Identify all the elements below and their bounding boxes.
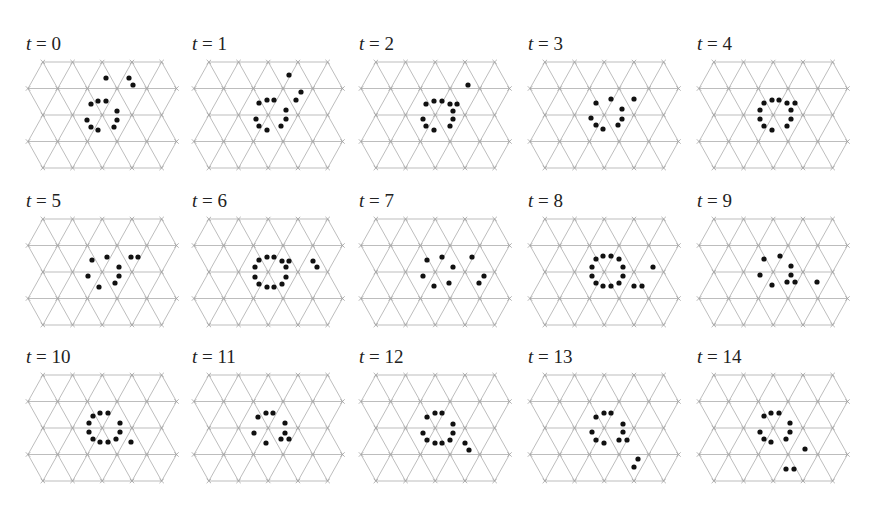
particle-dot bbox=[432, 410, 437, 415]
particle-dot bbox=[450, 430, 455, 435]
particle-dot bbox=[431, 127, 436, 132]
particle-dot bbox=[256, 281, 261, 286]
particle-dot bbox=[263, 440, 268, 445]
particle-dot bbox=[593, 100, 598, 105]
particle-dot bbox=[104, 254, 109, 259]
particle-dot bbox=[114, 117, 119, 122]
particle-dot bbox=[86, 420, 91, 425]
particle-dot bbox=[768, 439, 773, 444]
triangular-lattice bbox=[530, 219, 700, 349]
particle-dot bbox=[283, 264, 288, 269]
particle-dot bbox=[423, 101, 428, 106]
particle-dot bbox=[251, 430, 256, 435]
particle-dot bbox=[88, 124, 93, 129]
particle-dot bbox=[608, 283, 613, 288]
time-step-panel-7: t = 7 bbox=[357, 189, 527, 339]
triangular-lattice bbox=[28, 219, 198, 349]
time-value: 11 bbox=[218, 346, 236, 367]
particle-dot bbox=[446, 280, 451, 285]
particle-dot bbox=[431, 98, 436, 103]
particle-dot bbox=[96, 284, 101, 289]
particle-dot bbox=[424, 437, 429, 442]
particle-dot bbox=[593, 280, 598, 285]
particle-dot bbox=[650, 264, 655, 269]
particle-dot bbox=[85, 273, 90, 278]
particle-dot bbox=[593, 256, 598, 261]
time-step-panel-4: t = 4 bbox=[695, 32, 865, 182]
particle-dot bbox=[788, 272, 793, 277]
time-value: 13 bbox=[554, 346, 573, 367]
particle-dot bbox=[264, 97, 269, 102]
particle-dot bbox=[601, 440, 606, 445]
triangular-lattice bbox=[361, 219, 531, 349]
particle-dot bbox=[90, 413, 95, 418]
particle-dot bbox=[282, 420, 287, 425]
triangular-lattice bbox=[699, 219, 869, 349]
equals-sign: = bbox=[197, 190, 217, 211]
time-step-panel-10: t = 10 bbox=[24, 345, 194, 495]
particle-dot bbox=[431, 283, 436, 288]
time-value: 3 bbox=[554, 33, 564, 54]
equals-sign: = bbox=[31, 33, 51, 54]
time-step-label: t = 14 bbox=[697, 347, 742, 366]
particle-dot bbox=[103, 98, 108, 103]
triangular-lattice bbox=[361, 375, 531, 505]
particle-dot bbox=[252, 264, 257, 269]
particle-dot bbox=[420, 430, 425, 435]
time-step-label: t = 9 bbox=[697, 191, 732, 210]
particle-dot bbox=[619, 106, 624, 111]
particle-dot bbox=[439, 254, 444, 259]
particle-dot bbox=[130, 82, 135, 87]
particle-dot bbox=[635, 456, 640, 461]
particle-dot bbox=[784, 123, 789, 128]
particle-dot bbox=[761, 436, 766, 441]
particle-dot bbox=[95, 98, 100, 103]
particle-dot bbox=[454, 101, 459, 106]
particle-dot bbox=[776, 410, 781, 415]
time-step-panel-14: t = 14 bbox=[695, 345, 865, 495]
particle-dot bbox=[447, 437, 452, 442]
particle-dot bbox=[97, 439, 102, 444]
particle-dot bbox=[279, 258, 284, 263]
particle-dot bbox=[593, 437, 598, 442]
particle-dot bbox=[608, 410, 613, 415]
particle-dot bbox=[620, 264, 625, 269]
equals-sign: = bbox=[364, 190, 384, 211]
particle-dot bbox=[792, 100, 797, 105]
time-step-panel-8: t = 8 bbox=[526, 189, 696, 339]
particle-dot bbox=[252, 274, 257, 279]
time-step-label: t = 4 bbox=[697, 34, 732, 53]
particle-dot bbox=[117, 420, 122, 425]
time-step-label: t = 10 bbox=[26, 347, 71, 366]
particle-dot bbox=[117, 429, 122, 434]
particle-dot bbox=[466, 447, 471, 452]
particle-dot bbox=[788, 116, 793, 121]
particle-dot bbox=[469, 254, 474, 259]
time-step-label: t = 1 bbox=[192, 34, 227, 53]
particle-dot bbox=[757, 429, 762, 434]
particle-dot bbox=[600, 126, 605, 131]
particle-dot bbox=[105, 410, 110, 415]
particle-dot bbox=[787, 420, 792, 425]
particle-dot bbox=[255, 414, 260, 419]
particle-dot bbox=[631, 464, 636, 469]
particle-dot bbox=[264, 284, 269, 289]
particle-dot bbox=[757, 272, 762, 277]
triangular-lattice bbox=[530, 375, 700, 505]
time-value: 6 bbox=[218, 190, 228, 211]
particle-dot bbox=[286, 436, 291, 441]
particle-dot bbox=[88, 101, 93, 106]
particle-dot bbox=[278, 436, 283, 441]
time-value: 4 bbox=[723, 33, 733, 54]
particle-dot bbox=[293, 97, 298, 102]
time-value: 8 bbox=[554, 190, 564, 211]
particle-dot bbox=[256, 123, 261, 128]
particle-dot bbox=[589, 429, 594, 434]
particle-dot bbox=[126, 75, 131, 80]
particle-dot bbox=[310, 258, 315, 263]
particle-dot bbox=[282, 430, 287, 435]
particle-dot bbox=[264, 254, 269, 259]
lattice-time-series-figure: t = 0 t = 1 t = 2 t = 3 t = 4 t = 5 t = … bbox=[0, 0, 881, 508]
particle-dot bbox=[791, 466, 796, 471]
equals-sign: = bbox=[364, 33, 384, 54]
